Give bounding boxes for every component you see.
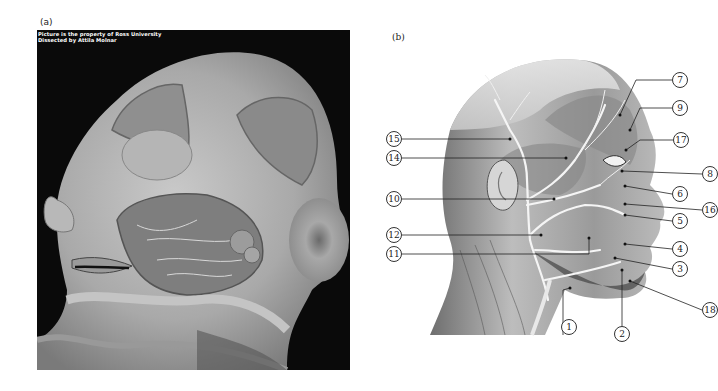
callout-12: 12 <box>386 227 402 243</box>
callout-6: 6 <box>672 186 688 202</box>
callout-9: 9 <box>672 100 688 116</box>
callout-17: 17 <box>673 132 689 148</box>
panel-a-label: (a) <box>40 17 53 27</box>
callout-5: 5 <box>672 213 688 229</box>
callout-18: 18 <box>702 302 718 318</box>
credit-line-2: Dissected by Attila Molnar <box>38 37 161 43</box>
callout-4: 4 <box>672 241 688 257</box>
leader-dots <box>509 114 632 290</box>
leader-lines <box>402 80 702 335</box>
callout-10: 10 <box>386 191 402 207</box>
callout-7: 7 <box>672 72 688 88</box>
photo-credit: Picture is the property of Ross Universi… <box>38 31 161 44</box>
panel-b-label: (b) <box>392 32 405 42</box>
callout-1: 1 <box>561 319 577 335</box>
callout-3: 3 <box>672 261 688 277</box>
callout-8: 8 <box>702 166 718 182</box>
callout-2: 2 <box>614 326 630 342</box>
callout-11: 11 <box>386 246 402 262</box>
callout-15: 15 <box>386 131 402 147</box>
callout-14: 14 <box>386 150 402 166</box>
dissection-photo: Picture is the property of Ross Universi… <box>37 30 350 370</box>
callout-16: 16 <box>702 202 718 218</box>
dissected-head-image <box>37 30 350 370</box>
